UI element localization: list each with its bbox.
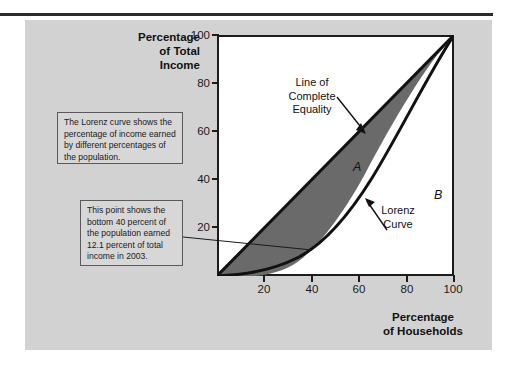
line-of-complete-equality-label: Line of Complete Equality [276,76,348,117]
y-tick-mark-100 [212,34,219,36]
lorenz-curve-figure: Percentage of Total Income Percentage of… [0,0,514,368]
x-axis-title: Percentage of Households [358,310,488,338]
y-tick-label-60: 60 [184,125,210,137]
top-divider-rule [0,13,493,16]
x-tick-mark-80 [406,275,408,282]
y-tick-mark-80 [212,82,219,84]
y-tick-mark-40 [212,178,219,180]
x-tick-mark-20 [263,275,265,282]
region-a-label: A [353,160,361,174]
x-tick-mark-60 [358,275,360,282]
x-tick-mark-40 [311,275,313,282]
x-tick-mark-100 [453,275,455,282]
x-tick-label-100: 100 [440,283,466,295]
y-tick-label-100: 100 [184,29,210,41]
y-tick-label-80: 80 [184,77,210,89]
x-tick-label-80: 80 [394,283,420,295]
y-tick-label-40: 40 [184,173,210,185]
y-tick-mark-60 [212,130,219,132]
lorenz-curve-label: Lorenz Curve [372,204,424,231]
y-tick-mark-20 [212,226,219,228]
region-b-label: B [434,188,442,202]
y-tick-label-20: 20 [184,221,210,233]
x-tick-label-40: 40 [299,283,325,295]
callout-point-description: This point shows the bottom 40 percent o… [80,200,183,266]
x-tick-label-20: 20 [251,283,277,295]
callout-lorenz-description: The Lorenz curve shows the percentage of… [57,112,183,164]
x-tick-label-60: 60 [346,283,372,295]
